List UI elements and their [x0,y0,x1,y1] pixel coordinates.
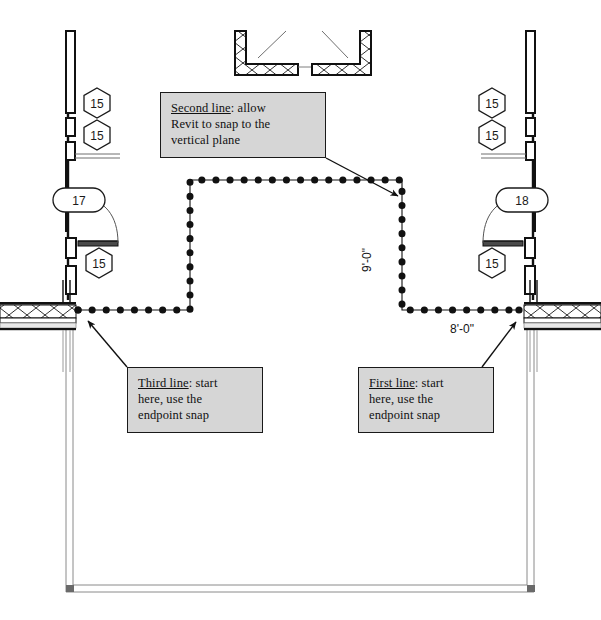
tag-hex-left-upper[interactable]: 15 [84,88,110,118]
room-outline [66,324,535,592]
floor-plan-canvas: 15 15 15 15 15 15 17 18 [0,0,601,620]
callout-third-line-lead: Third line [138,376,189,390]
callout-first-line-line3: endpoint snap [369,407,484,423]
callout-first-line-lead: First line [369,376,415,390]
tag-hex-right-upper[interactable]: 15 [479,88,505,118]
callout-second-line-line1: Second line: allow [171,100,316,116]
callout-third-line-rest: : start [189,376,218,390]
top-center-wall-section [235,31,371,75]
callout-second-line-lead: Second line [171,101,231,115]
tag-hex-left-door-label: 15 [92,257,106,271]
tag-oval-left[interactable]: 17 [53,188,105,212]
tag-hex-right-lower[interactable]: 15 [479,120,505,150]
callout-first-line[interactable]: First line: start here, use the endpoint… [358,367,494,433]
callout-first-line-line2: here, use the [369,391,484,407]
callout-second-line-line3: vertical plane [171,132,316,148]
leader-first-line [482,322,516,367]
tag-oval-left-label: 17 [72,194,86,208]
tag-hex-left-lower[interactable]: 15 [84,120,110,150]
callout-third-line-line1: Third line: start [138,375,253,391]
dimension-vertical-label: 9'-0" [360,248,374,272]
dimension-horizontal: 8'-0" [450,322,474,336]
tag-oval-right[interactable]: 18 [496,188,548,212]
leader-third-line [88,321,127,367]
callout-second-line-rest: : allow [231,101,266,115]
callout-third-line-line3: endpoint snap [138,407,253,423]
callout-first-line-rest: : start [415,376,444,390]
dimension-horizontal-label: 8'-0" [450,322,474,336]
callout-first-line-line1: First line: start [369,375,484,391]
leader-second-line [326,158,398,196]
callout-third-line-line2: here, use the [138,391,253,407]
tag-hex-left-door[interactable]: 15 [86,248,112,278]
sketch-dotted-path [74,180,522,314]
tag-hex-left-upper-label: 15 [90,97,104,111]
left-wall-hatched-band [0,280,76,372]
tag-oval-right-label: 18 [515,194,529,208]
tag-hex-right-door[interactable]: 15 [479,248,505,278]
tag-hex-right-upper-label: 15 [485,97,499,111]
tag-hex-left-lower-label: 15 [90,129,104,143]
dimension-vertical: 9'-0" [360,248,374,272]
tag-hex-right-door-label: 15 [485,257,499,271]
callout-second-line[interactable]: Second line: allow Revit to snap to the … [160,92,326,158]
tag-hex-right-lower-label: 15 [485,129,499,143]
callout-second-line-line2: Revit to snap to the [171,116,316,132]
callout-third-line[interactable]: Third line: start here, use the endpoint… [127,367,263,433]
